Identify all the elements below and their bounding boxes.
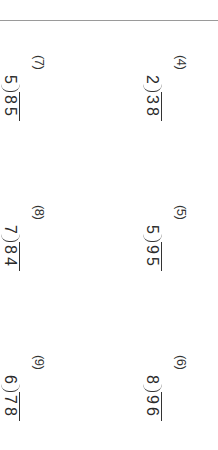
header-divider-line (0, 20, 218, 21)
problem-label: (7) (32, 55, 46, 69)
division-bracket-icon (2, 236, 19, 242)
dividend[interactable]: 84 (2, 242, 20, 271)
problem-4: (4) 2 38 (144, 55, 188, 135)
long-division-expression: 5 95 (144, 225, 162, 271)
problem-9: (9) 6 78 (2, 355, 46, 435)
problem-label: (8) (32, 205, 46, 219)
problem-7: (7) 5 85 (2, 55, 46, 135)
dividend[interactable]: 96 (144, 392, 162, 421)
division-bracket-icon (144, 86, 161, 92)
dividend[interactable]: 38 (144, 92, 162, 121)
division-bracket-icon (144, 386, 161, 392)
division-bracket-icon (2, 386, 19, 392)
division-bracket-icon (144, 236, 161, 242)
problem-6: (6) 8 96 (144, 355, 188, 435)
problem-label: (4) (174, 55, 188, 69)
dividend[interactable]: 78 (2, 392, 20, 421)
division-bracket-icon (2, 86, 19, 92)
dividend[interactable]: 85 (2, 92, 20, 121)
long-division-expression: 2 38 (144, 75, 162, 121)
problem-label: (6) (174, 355, 188, 369)
problem-label: (5) (174, 205, 188, 219)
long-division-expression: 5 85 (2, 75, 20, 121)
dividend[interactable]: 95 (144, 242, 162, 271)
long-division-expression: 8 96 (144, 375, 162, 421)
problem-5: (5) 5 95 (144, 205, 188, 285)
problem-label: (9) (32, 355, 46, 369)
problem-8: (8) 7 84 (2, 205, 46, 285)
long-division-expression: 6 78 (2, 375, 20, 421)
long-division-expression: 7 84 (2, 225, 20, 271)
